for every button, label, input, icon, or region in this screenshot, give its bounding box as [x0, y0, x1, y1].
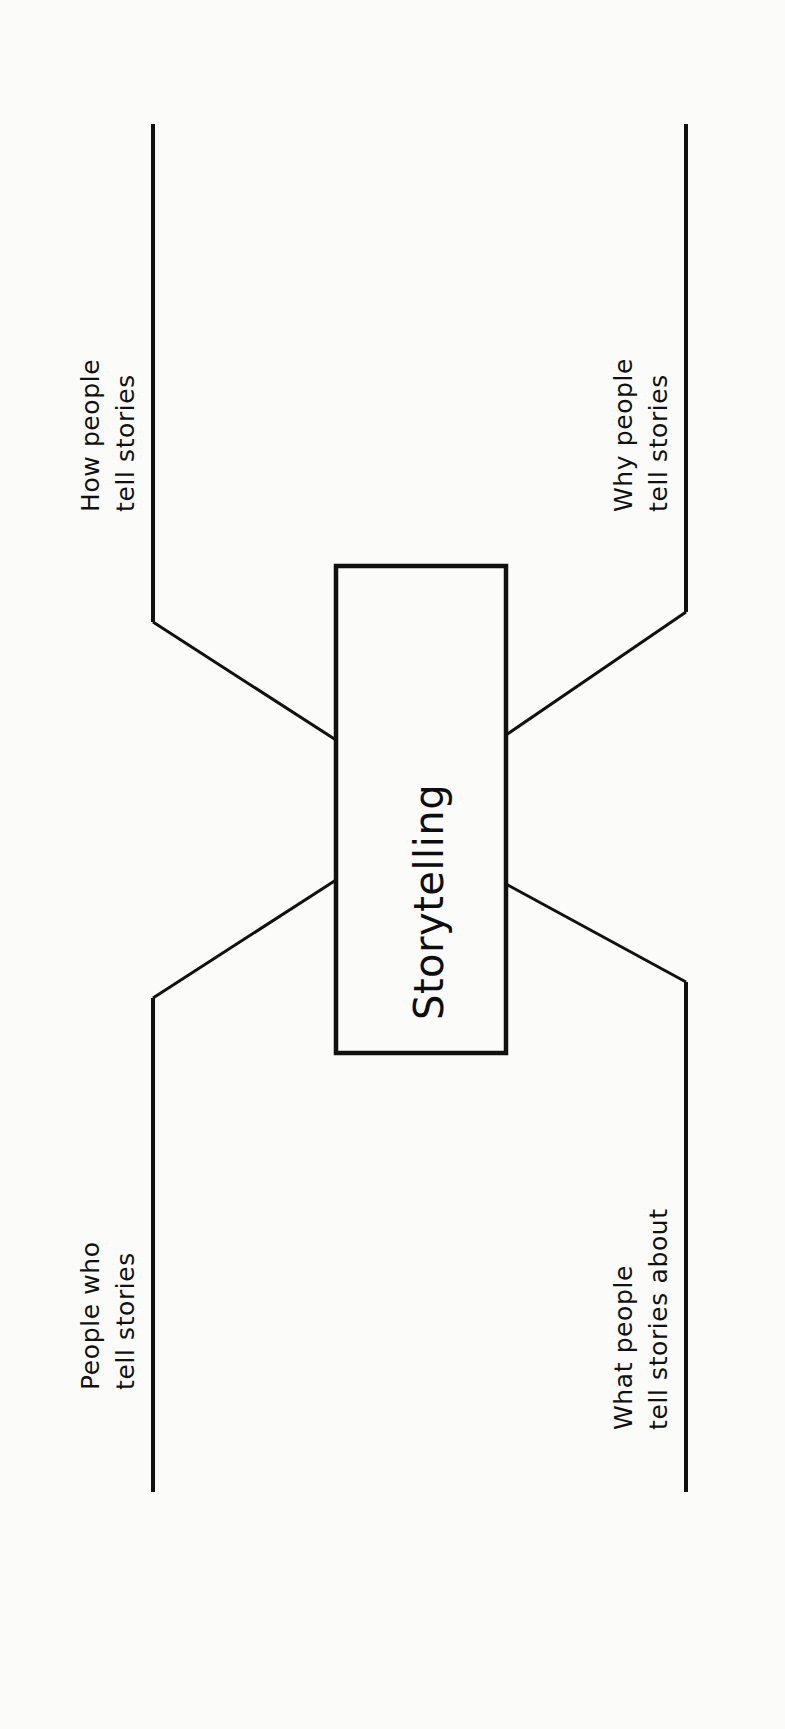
- branch-connector-what-people: [506, 884, 686, 982]
- center-concept-label: Storytelling: [406, 784, 452, 1020]
- branch-label-why-people-line1: Why people: [607, 358, 642, 512]
- branch-label-what-people-line2: tell stories about: [642, 1208, 677, 1430]
- branch-connector-why-people: [506, 612, 686, 735]
- branch-connector-people-who: [153, 880, 336, 998]
- diagram-lines: [0, 0, 785, 1729]
- branch-label-how-people-line2: tell stories: [109, 359, 144, 512]
- diagram-canvas: Storytelling How people tell stories Why…: [0, 0, 785, 1729]
- branch-label-why-people: Why people tell stories: [607, 358, 676, 512]
- branch-label-what-people-line1: What people: [607, 1208, 642, 1430]
- branch-label-people-who-line2: tell stories: [109, 1241, 144, 1390]
- center-concept-text: Storytelling: [406, 784, 452, 1020]
- branch-label-why-people-line2: tell stories: [642, 358, 677, 512]
- branch-connector-how-people: [153, 622, 336, 740]
- branch-label-people-who: People who tell stories: [74, 1241, 143, 1390]
- branch-label-how-people-line1: How people: [74, 359, 109, 512]
- branch-label-how-people: How people tell stories: [74, 359, 143, 512]
- branch-label-people-who-line1: People who: [74, 1241, 109, 1390]
- branch-label-what-people: What people tell stories about: [607, 1208, 676, 1430]
